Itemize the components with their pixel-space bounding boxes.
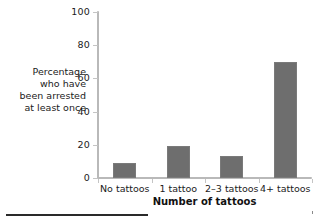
y-tick-label-100: 100 [50, 7, 90, 17]
x-axis-title: Number of tattoos [97, 196, 312, 208]
y-tick-mark-20 [93, 145, 98, 146]
y-tick-label-40: 40 [50, 107, 90, 117]
y-tick-mark-40 [93, 112, 98, 113]
x-tick-label-no-tattoos: No tattoos [94, 183, 156, 194]
x-tick-label-1-tattoo: 1 tattoo [148, 183, 210, 194]
x-tick-label-2-3-tattoos: 2–3 tattoos [201, 183, 263, 194]
y-axis-title-line-3: been arrested [2, 90, 86, 102]
y-axis-line [97, 11, 99, 179]
bar-4-plus-tattoos [274, 62, 297, 178]
bar-2-3-tattoos [220, 156, 243, 178]
footer-corner-mark [312, 211, 313, 214]
y-tick-mark-60 [93, 78, 98, 79]
y-tick-label-20: 20 [50, 140, 90, 150]
bar-no-tattoos [113, 163, 136, 178]
y-tick-label-0: 0 [50, 173, 90, 183]
footer-divider [6, 214, 148, 216]
bar-1-tattoo [167, 146, 190, 178]
bar-chart-figure: Percentage who have been arrested at lea… [0, 0, 317, 222]
y-tick-mark-80 [93, 45, 98, 46]
x-tick-label-4-plus-tattoos: 4+ tattoos [255, 183, 317, 194]
y-tick-label-80: 80 [50, 40, 90, 50]
y-tick-label-60: 60 [50, 73, 90, 83]
y-tick-mark-100 [93, 12, 98, 13]
